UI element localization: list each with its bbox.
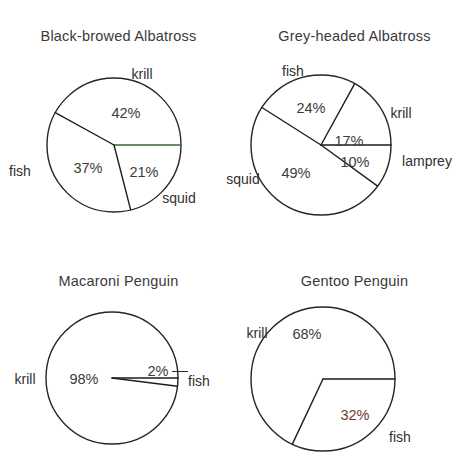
pie-graphic-gentoo-penguin [0, 0, 473, 470]
slice-category-label-krill: krill [247, 325, 268, 341]
leader-line-macaroni-fish [172, 371, 188, 372]
slice-value-label: 32% [340, 407, 369, 423]
pie-chart-figure: Black-browed Albatross42%37%21%krillfish… [0, 0, 473, 470]
pie-panel-gentoo-penguin: Gentoo Penguin68%32%krillfish [0, 0, 473, 470]
slice-category-label-fish: fish [389, 429, 411, 445]
slice-value-label: 68% [292, 326, 321, 342]
